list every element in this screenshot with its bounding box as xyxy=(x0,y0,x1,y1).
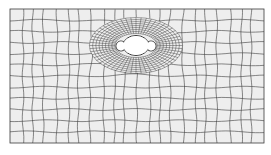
mesh-figure xyxy=(0,0,271,155)
